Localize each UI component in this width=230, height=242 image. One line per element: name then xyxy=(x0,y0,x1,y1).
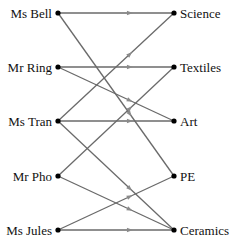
node-ring xyxy=(55,64,60,69)
node-tran xyxy=(55,118,60,123)
node-label-pho: Mr Pho xyxy=(13,169,52,184)
arrow-icon xyxy=(127,119,133,123)
arrow-icon xyxy=(127,228,133,232)
arrow-icon xyxy=(127,11,133,15)
node-label-ceramics: Ceramics xyxy=(180,223,229,238)
node-science xyxy=(171,10,176,15)
node-label-textiles: Textiles xyxy=(180,60,221,75)
node-textiles xyxy=(171,64,176,69)
edges-group xyxy=(58,11,174,232)
bipartite-diagram: Ms BellMr RingMs TranMr PhoMs JulesScien… xyxy=(0,0,230,242)
edge-tran-to-ceramics xyxy=(58,121,174,230)
node-label-art: Art xyxy=(180,114,198,129)
node-label-ring: Mr Ring xyxy=(8,60,53,75)
node-pho xyxy=(55,173,60,178)
node-ceramics xyxy=(171,227,176,232)
node-jules xyxy=(55,227,60,232)
node-label-tran: Ms Tran xyxy=(8,114,52,129)
node-label-science: Science xyxy=(180,6,221,21)
node-pe xyxy=(171,173,176,178)
node-label-bell: Ms Bell xyxy=(10,6,52,21)
node-label-pe: PE xyxy=(180,169,195,184)
arrow-icon xyxy=(127,65,133,69)
node-label-jules: Ms Jules xyxy=(6,223,52,238)
arrow-icon xyxy=(126,193,133,200)
node-art xyxy=(171,118,176,123)
edge-ring-to-art xyxy=(58,67,174,121)
arrow-icon xyxy=(126,97,133,104)
arrow-icon xyxy=(126,206,133,213)
node-bell xyxy=(55,10,60,15)
